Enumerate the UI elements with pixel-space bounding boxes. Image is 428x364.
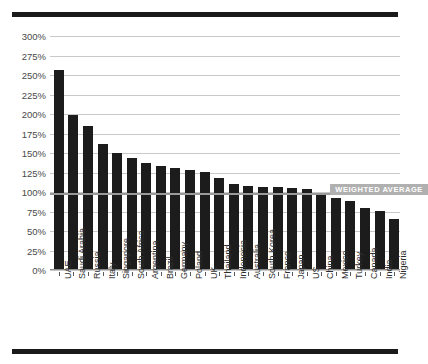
- x-axis-label: Thailand: [223, 244, 233, 279]
- y-axis-tick-label: 300%: [0, 31, 46, 42]
- y-axis-tick-label: 200%: [0, 109, 46, 120]
- x-axis-tick-mark: [190, 272, 191, 276]
- x-axis-label: Italy: [107, 262, 117, 279]
- plot-area: [50, 36, 400, 270]
- x-axis-tick-mark: [219, 272, 220, 276]
- x-axis-label: Australia: [252, 244, 262, 279]
- y-axis-tick-label: 275%: [0, 50, 46, 61]
- y-axis-tick-label: 50%: [0, 226, 46, 237]
- weighted-average-label: WEIGHTED AVERAGE: [330, 184, 428, 195]
- gridline: [50, 56, 400, 57]
- x-axis-tick-mark: [263, 272, 264, 276]
- gridline: [50, 114, 400, 115]
- x-axis-label: Russia: [92, 251, 102, 279]
- gridline: [50, 36, 400, 37]
- gridline: [50, 95, 400, 96]
- x-axis-tick-mark: [88, 272, 89, 276]
- x-axis-label: Canada: [369, 247, 379, 279]
- gridline: [50, 134, 400, 135]
- y-axis-tick-label: 125%: [0, 167, 46, 178]
- y-axis-tick-label: 0%: [0, 265, 46, 276]
- x-axis-label: Brazil: [165, 256, 175, 279]
- x-axis-label: UK: [209, 266, 219, 279]
- x-axis-label: Nigeria: [398, 250, 408, 279]
- gridline: [50, 75, 400, 76]
- x-axis-tick-mark: [175, 272, 176, 276]
- x-axis-tick-mark: [132, 272, 133, 276]
- y-axis-tick-label: 25%: [0, 245, 46, 256]
- x-axis-label: China: [325, 255, 335, 279]
- bar: [54, 70, 64, 270]
- x-axis-tick-mark: [234, 272, 235, 276]
- y-axis-tick-label: 225%: [0, 89, 46, 100]
- x-axis-tick-mark: [336, 272, 337, 276]
- y-axis-tick-label: 75%: [0, 206, 46, 217]
- x-axis-label: Argentina: [150, 240, 160, 279]
- x-axis-tick-mark: [350, 272, 351, 276]
- x-axis-label: South Korea: [267, 229, 277, 279]
- x-axis-tick-mark: [161, 272, 162, 276]
- x-axis-tick-mark: [292, 272, 293, 276]
- x-axis-tick-mark: [103, 272, 104, 276]
- x-axis-label: South Africa: [136, 230, 146, 279]
- x-axis-tick-mark: [380, 272, 381, 276]
- x-axis-label: India: [384, 259, 394, 279]
- x-axis-label: US: [311, 266, 321, 279]
- x-axis-tick-mark: [146, 272, 147, 276]
- y-axis-tick-label: 100%: [0, 187, 46, 198]
- x-axis-label: Indonesia: [238, 240, 248, 279]
- x-axis-label: Poland: [194, 251, 204, 279]
- x-axis-label: Saudi Arabia: [77, 228, 87, 279]
- x-axis-tick-mark: [321, 272, 322, 276]
- x-axis-label: France: [282, 251, 292, 279]
- x-axis-tick-mark: [278, 272, 279, 276]
- x-axis-label: Germany: [179, 242, 189, 279]
- y-axis-tick-label: 250%: [0, 70, 46, 81]
- y-axis-tick-label: 150%: [0, 148, 46, 159]
- x-axis-tick-mark: [365, 272, 366, 276]
- x-axis-tick-mark: [394, 272, 395, 276]
- x-axis-label: Turkey: [354, 252, 364, 279]
- x-axis-label: Japan: [296, 254, 306, 279]
- x-axis-tick-mark: [117, 272, 118, 276]
- x-axis-tick-mark: [205, 272, 206, 276]
- x-axis-label: UAE: [63, 260, 73, 279]
- y-axis-tick-label: 175%: [0, 128, 46, 139]
- x-axis-tick-mark: [59, 272, 60, 276]
- x-axis-tick-mark: [307, 272, 308, 276]
- x-axis-tick-mark: [248, 272, 249, 276]
- x-axis-label: Mexico: [340, 250, 350, 279]
- x-axis-tick-mark: [73, 272, 74, 276]
- x-axis-label: Singapore: [121, 238, 131, 279]
